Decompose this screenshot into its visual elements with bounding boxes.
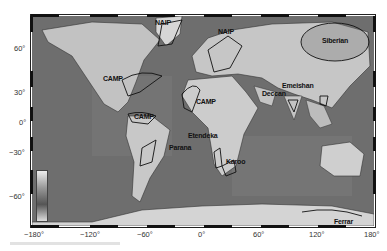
label-naip-2: NAIP bbox=[218, 28, 234, 35]
frame-tick bbox=[31, 225, 59, 228]
frame-tick bbox=[30, 170, 33, 194]
label-etendeka: Etendeka bbox=[188, 132, 218, 139]
frame-tick bbox=[90, 14, 118, 17]
frame-tick bbox=[90, 225, 118, 228]
x-tick-label: 60° bbox=[253, 230, 264, 239]
label-camp-africa: CAMP bbox=[196, 98, 216, 105]
cropped-caption bbox=[10, 242, 120, 245]
frame-tick bbox=[30, 137, 33, 151]
x-tick-label: 120° bbox=[309, 230, 325, 239]
map-shapes bbox=[32, 16, 374, 226]
x-tick-label: 180° bbox=[364, 230, 380, 239]
frame-tick bbox=[373, 107, 376, 121]
y-tick-label: 60° bbox=[14, 44, 25, 53]
x-tick-label: −120° bbox=[80, 230, 100, 239]
frame-tick bbox=[147, 14, 175, 17]
label-deccan: Deccan bbox=[262, 90, 286, 97]
label-karoo: Karoo bbox=[226, 158, 245, 165]
y-tick-label: −60° bbox=[9, 192, 25, 201]
label-naip-1: NAIP bbox=[155, 19, 171, 26]
frame-tick bbox=[373, 71, 376, 87]
label-siberian: Siberian bbox=[322, 37, 348, 44]
x-tick-label: −60° bbox=[137, 230, 153, 239]
frame-tick bbox=[373, 16, 376, 32]
frame-tick bbox=[30, 71, 33, 87]
frame-tick bbox=[204, 225, 232, 228]
x-tick-label: −180° bbox=[24, 230, 44, 239]
frame-tick bbox=[31, 14, 59, 17]
world-map: NAIP NAIP Siberian CAMP CAMP CAMP Emeish… bbox=[32, 16, 374, 226]
label-camp-north-america: CAMP bbox=[103, 75, 123, 82]
frame-tick bbox=[30, 107, 33, 121]
frame-tick bbox=[318, 14, 346, 17]
frame-tick bbox=[373, 170, 376, 194]
elevation-colorbar bbox=[36, 170, 48, 222]
y-tick-label: 30° bbox=[14, 88, 25, 97]
frame-tick bbox=[30, 16, 33, 32]
frame-tick bbox=[261, 14, 289, 17]
label-camp-south-america: CAMP bbox=[134, 113, 154, 120]
frame-tick bbox=[147, 225, 175, 228]
frame-tick bbox=[373, 137, 376, 151]
y-tick-label: −30° bbox=[9, 148, 25, 157]
label-parana: Parana bbox=[169, 144, 191, 151]
label-ferrar: Ferrar bbox=[334, 218, 353, 225]
frame-tick bbox=[261, 225, 289, 228]
frame-tick bbox=[318, 225, 346, 228]
x-tick-label: 0° bbox=[198, 230, 205, 239]
label-emeishan: Emeishan bbox=[282, 82, 313, 89]
y-tick-label: 0° bbox=[19, 118, 26, 127]
frame-tick bbox=[204, 14, 232, 17]
